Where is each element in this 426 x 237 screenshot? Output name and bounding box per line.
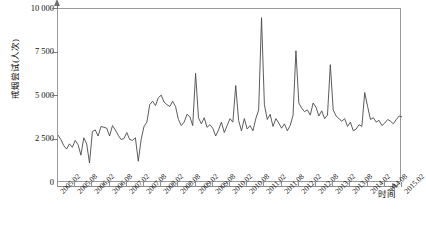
x-axis-tick-mark bbox=[298, 182, 299, 187]
x-axis-tick-mark bbox=[349, 182, 350, 187]
x-axis-tick-mark bbox=[177, 182, 178, 187]
y-axis-tick-mark bbox=[52, 139, 58, 140]
x-axis-tick-mark bbox=[74, 182, 75, 187]
x-axis-tick-mark bbox=[195, 182, 196, 187]
plot-area bbox=[57, 8, 401, 182]
x-axis-tick-mark bbox=[246, 182, 247, 187]
x-axis-tick-mark bbox=[281, 182, 282, 187]
x-axis-tick-mark bbox=[401, 182, 402, 187]
x-axis-tick-mark bbox=[367, 182, 368, 187]
y-axis-tick-mark bbox=[52, 95, 58, 96]
x-axis-tick-mark bbox=[143, 182, 144, 187]
series-line bbox=[58, 9, 402, 183]
x-axis-tick-mark bbox=[384, 182, 385, 187]
y-axis-tick-label: 0 bbox=[14, 178, 54, 187]
y-axis-tick-label: 2 500 bbox=[14, 134, 54, 143]
x-axis-tick-mark bbox=[263, 182, 264, 187]
x-axis-tick-mark bbox=[315, 182, 316, 187]
x-axis-tick-mark bbox=[126, 182, 127, 187]
x-axis-tick-mark bbox=[212, 182, 213, 187]
y-axis-tick-labels: 02 5005 0007 50010 000 bbox=[14, 0, 54, 237]
x-axis-tick-mark bbox=[57, 182, 58, 187]
y-axis-tick-label: 7 500 bbox=[14, 47, 54, 56]
x-axis-tick-mark bbox=[109, 182, 110, 187]
y-axis-tick-mark bbox=[52, 8, 58, 9]
y-axis-tick-label: 5 000 bbox=[14, 91, 54, 100]
y-axis-arrow-icon bbox=[54, 0, 60, 6]
x-axis-title: 时间 bbox=[378, 189, 396, 199]
x-axis-tick-mark bbox=[332, 182, 333, 187]
y-axis-tick-label: 10 000 bbox=[14, 4, 54, 13]
x-axis-tick-mark bbox=[229, 182, 230, 187]
x-axis-tick-mark bbox=[160, 182, 161, 187]
x-axis-tick-mark bbox=[91, 182, 92, 187]
y-axis-tick-mark bbox=[52, 52, 58, 53]
